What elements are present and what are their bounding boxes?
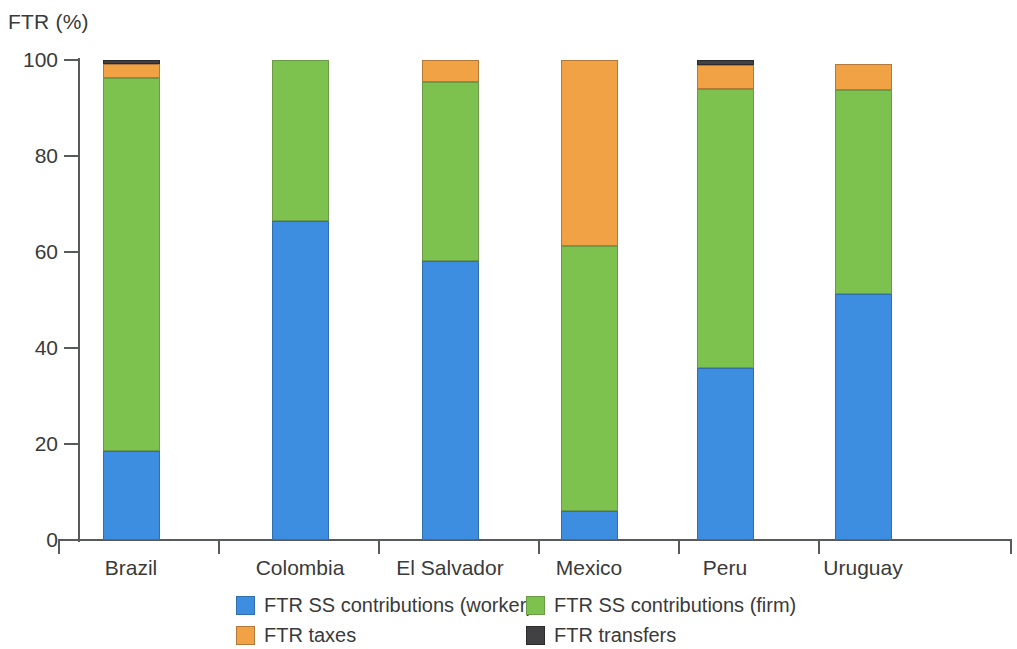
bar-brazil[interactable] <box>103 60 160 540</box>
legend-item-transfers[interactable]: FTR transfers <box>526 625 796 645</box>
y-axis-tick-label: 0 <box>2 528 58 552</box>
y-axis-tick-label: 100 <box>2 48 58 72</box>
bar-segment-worker[interactable] <box>697 368 754 540</box>
bar-colombia[interactable] <box>272 60 329 540</box>
x-axis-label-peru: Peru <box>703 556 747 580</box>
y-axis-tick <box>64 443 78 445</box>
x-axis-label-mexico: Mexico <box>556 556 623 580</box>
x-axis-label-colombia: Colombia <box>256 556 345 580</box>
bar-segment-firm[interactable] <box>697 89 754 368</box>
bar-segment-firm[interactable] <box>835 90 892 294</box>
bar-segment-taxes[interactable] <box>697 65 754 89</box>
y-axis-tick <box>64 539 78 541</box>
x-axis-label-uruguay: Uruguay <box>823 556 902 580</box>
bar-uruguay[interactable] <box>835 64 892 540</box>
y-axis-tick <box>64 59 78 61</box>
legend-swatch-taxes-icon <box>236 626 255 645</box>
legend-label-worker: FTR SS contributions (worker) <box>264 595 533 615</box>
legend-item-taxes[interactable]: FTR taxes <box>236 625 526 645</box>
x-axis-tick <box>818 541 820 554</box>
y-axis-tick-label: 80 <box>2 144 58 168</box>
bar-segment-transfers[interactable] <box>103 60 160 64</box>
legend-label-firm: FTR SS contributions (firm) <box>554 595 796 615</box>
y-axis-tick-label: 60 <box>2 240 58 264</box>
bar-segment-worker[interactable] <box>422 261 479 540</box>
bar-el-salvador[interactable] <box>422 60 479 540</box>
bar-segment-firm[interactable] <box>103 78 160 451</box>
bar-segment-firm[interactable] <box>272 60 329 221</box>
y-axis-tick <box>64 347 78 349</box>
y-axis-tick <box>64 155 78 157</box>
bar-segment-worker[interactable] <box>561 511 618 540</box>
legend-row: FTR taxes FTR transfers <box>236 622 796 648</box>
chart-legend: FTR SS contributions (worker) FTR SS con… <box>236 592 796 648</box>
legend-swatch-transfers-icon <box>526 626 545 645</box>
bar-segment-taxes[interactable] <box>103 64 160 78</box>
bar-mexico[interactable] <box>561 60 618 540</box>
y-axis-title: FTR (%) <box>8 10 89 34</box>
bar-peru[interactable] <box>697 60 754 540</box>
legend-row: FTR SS contributions (worker) FTR SS con… <box>236 592 796 618</box>
x-axis-label-el-salvador: El Salvador <box>396 556 503 580</box>
legend-swatch-firm-icon <box>526 596 545 615</box>
legend-item-firm[interactable]: FTR SS contributions (firm) <box>526 595 796 615</box>
bar-segment-worker[interactable] <box>103 451 160 540</box>
bar-segment-taxes[interactable] <box>835 64 892 90</box>
chart-container: FTR (%) 020406080100 BrazilColombiaEl Sa… <box>0 0 1017 649</box>
x-axis-label-brazil: Brazil <box>105 556 158 580</box>
legend-label-transfers: FTR transfers <box>554 625 676 645</box>
bar-segment-firm[interactable] <box>422 82 479 261</box>
bar-segment-worker[interactable] <box>272 221 329 540</box>
y-axis-line <box>78 58 80 542</box>
legend-label-taxes: FTR taxes <box>264 625 356 645</box>
bar-segment-taxes[interactable] <box>561 60 618 246</box>
legend-item-worker[interactable]: FTR SS contributions (worker) <box>236 595 526 615</box>
bar-segment-taxes[interactable] <box>422 60 479 82</box>
bar-segment-firm[interactable] <box>561 246 618 511</box>
x-axis-tick <box>58 541 60 554</box>
y-axis-tick-label: 40 <box>2 336 58 360</box>
x-axis-tick <box>378 541 380 554</box>
x-axis-tick <box>538 541 540 554</box>
y-axis-tick-label: 20 <box>2 432 58 456</box>
x-axis-tick <box>678 541 680 554</box>
bar-segment-transfers[interactable] <box>697 60 754 65</box>
x-axis-tick <box>1010 541 1012 554</box>
y-axis-tick <box>64 251 78 253</box>
x-axis-tick <box>218 541 220 554</box>
bar-segment-worker[interactable] <box>835 294 892 540</box>
legend-swatch-worker-icon <box>236 596 255 615</box>
